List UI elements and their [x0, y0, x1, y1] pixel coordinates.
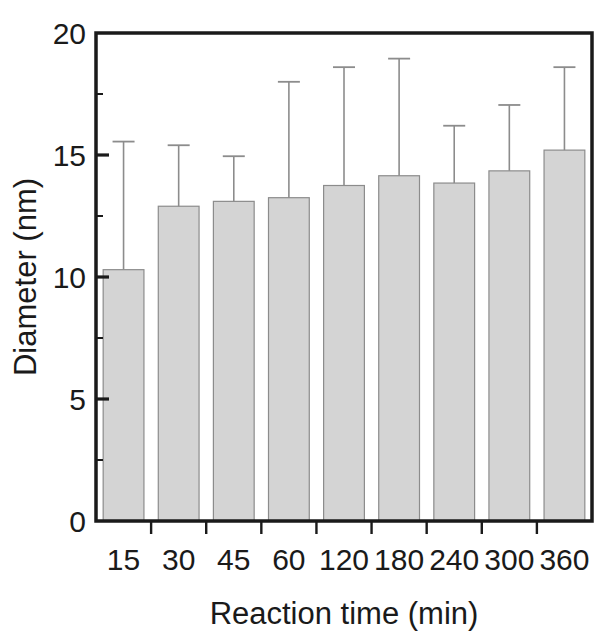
- bar-chart: Diameter (nm) 20 15 10 5 0 1530456012018…: [0, 0, 608, 638]
- bar-180: [379, 176, 420, 521]
- x-tick-label-60: 60: [272, 543, 305, 576]
- bar-360: [544, 150, 585, 521]
- y-tick-label-20: 20: [53, 17, 86, 50]
- bar-30: [158, 206, 199, 521]
- x-tick-label-30: 30: [162, 543, 195, 576]
- bar-15: [103, 270, 144, 521]
- bar-300: [489, 171, 530, 521]
- x-tick-label-360: 360: [539, 543, 589, 576]
- bar-240: [434, 183, 475, 521]
- bar-60: [269, 198, 310, 521]
- x-tick-labels: 15304560120180240300360: [107, 543, 590, 576]
- bar-120: [324, 186, 365, 522]
- y-tick-label-10: 10: [53, 261, 86, 294]
- y-tick-label-0: 0: [69, 505, 86, 538]
- x-tick-label-180: 180: [374, 543, 424, 576]
- x-tick-label-240: 240: [429, 543, 479, 576]
- bars-layer: [103, 150, 585, 521]
- x-axis-title: Reaction time (min): [210, 596, 479, 631]
- x-tick-label-120: 120: [319, 543, 369, 576]
- chart-figure: Diameter (nm) 20 15 10 5 0 1530456012018…: [0, 0, 608, 638]
- y-tick-label-15: 15: [53, 139, 86, 172]
- y-tick-label-5: 5: [69, 383, 86, 416]
- x-tick-label-300: 300: [484, 543, 534, 576]
- x-tick-label-15: 15: [107, 543, 140, 576]
- bar-45: [213, 201, 254, 521]
- x-tick-label-45: 45: [217, 543, 250, 576]
- y-axis-title: Diameter (nm): [8, 178, 43, 376]
